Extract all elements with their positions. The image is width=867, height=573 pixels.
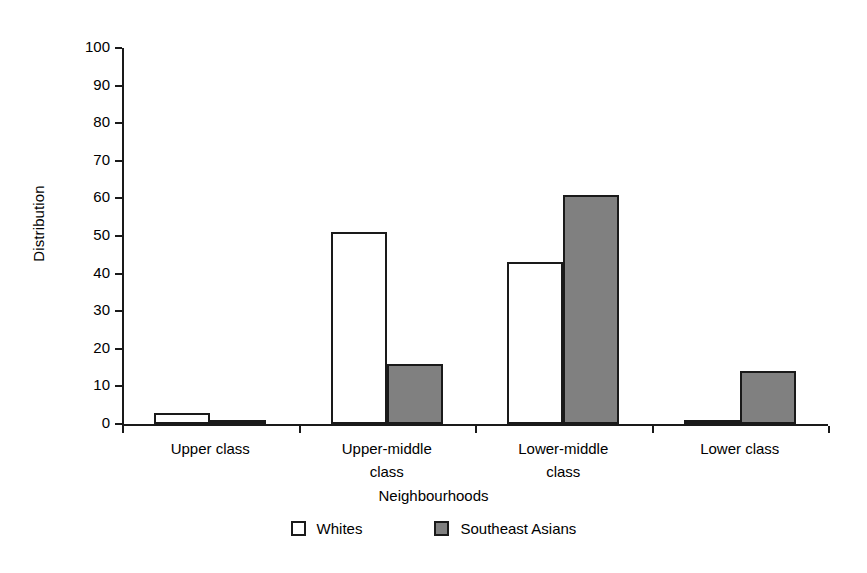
plot-area: 1009080706050403020100: [122, 48, 828, 424]
x-axis-tick: [652, 426, 654, 433]
category-label-line: Upper-middle: [299, 437, 476, 460]
x-axis-category-label: Lower-middleclass: [475, 437, 652, 483]
bar-southeast-asians-upper-middle-class: [387, 364, 443, 424]
y-axis-tick: 80: [115, 122, 122, 124]
bar-southeast-asians-upper-class: [210, 420, 266, 424]
y-axis-tick-label: 80: [93, 113, 110, 130]
x-axis-tick: [299, 426, 301, 433]
y-axis-tick-label: 50: [93, 226, 110, 243]
bar-whites-lower-class: [684, 420, 740, 424]
category-label-line: Lower-middle: [475, 437, 652, 460]
y-axis-tick: 20: [115, 348, 122, 350]
legend-item-whites: Whites: [291, 520, 363, 537]
bar-chart: Distribution 1009080706050403020100 Uppe…: [0, 0, 867, 573]
y-axis-tick-label: 10: [93, 376, 110, 393]
y-axis-tick-label: 30: [93, 301, 110, 318]
category-label-line: Upper class: [122, 437, 299, 460]
x-axis-category-label: Lower class: [652, 437, 829, 460]
legend-item-southeast-asians: Southeast Asians: [434, 520, 576, 537]
bar-whites-upper-class: [154, 413, 210, 424]
y-axis-tick: 10: [115, 385, 122, 387]
legend-item-label: Southeast Asians: [460, 520, 576, 537]
y-axis-tick: 90: [115, 85, 122, 87]
category-label-line: Lower class: [652, 437, 829, 460]
y-axis-tick: 60: [115, 197, 122, 199]
y-axis-tick: 40: [115, 273, 122, 275]
y-axis-tick-label: 90: [93, 76, 110, 93]
bar-whites-lower-middle-class: [507, 262, 563, 424]
category-label-line: class: [475, 460, 652, 483]
y-axis-tick: 0: [115, 423, 122, 425]
y-axis-tick: 100: [115, 47, 122, 49]
y-axis-tick: 70: [115, 160, 122, 162]
y-axis-tick-label: 70: [93, 151, 110, 168]
bar-southeast-asians-lower-class: [740, 371, 796, 424]
y-axis-tick-label: 0: [102, 414, 110, 431]
x-axis-tick: [828, 426, 830, 433]
gray-square-swatch: [434, 521, 449, 536]
y-axis-tick-label: 60: [93, 188, 110, 205]
white-square-swatch: [291, 521, 306, 536]
bars-layer: [122, 48, 828, 424]
category-label-line: class: [299, 460, 476, 483]
bar-whites-upper-middle-class: [331, 232, 387, 424]
y-axis-tick: 30: [115, 310, 122, 312]
y-axis-tick-label: 20: [93, 339, 110, 356]
x-axis-title: Neighbourhoods: [0, 487, 867, 504]
legend-item-label: Whites: [317, 520, 363, 537]
chart-legend: WhitesSoutheast Asians: [0, 520, 867, 537]
y-axis-tick-label: 40: [93, 264, 110, 281]
x-axis-category-label: Upper-middleclass: [299, 437, 476, 483]
y-axis-tick: 50: [115, 235, 122, 237]
bar-southeast-asians-lower-middle-class: [563, 195, 619, 424]
x-axis-tick: [122, 426, 124, 433]
y-axis-title: Distribution: [30, 124, 47, 324]
y-axis-tick-label: 100: [85, 38, 110, 55]
x-axis-tick: [475, 426, 477, 433]
x-axis-category-labels: Upper classUpper-middleclassLower-middle…: [122, 437, 828, 489]
x-axis-category-label: Upper class: [122, 437, 299, 460]
